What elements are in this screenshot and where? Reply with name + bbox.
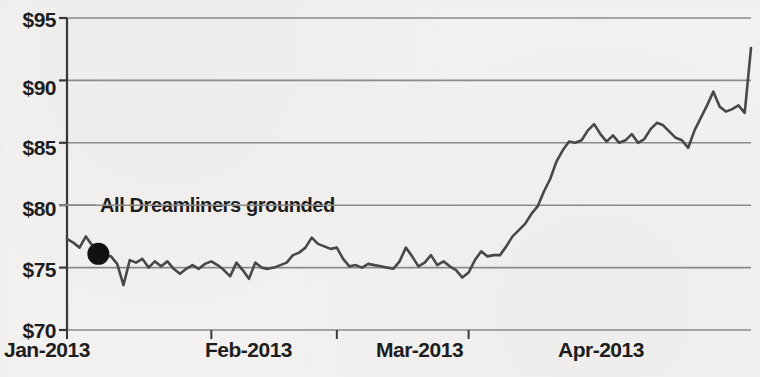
annotation-marker-group [87, 243, 109, 265]
data-series-group [67, 48, 751, 285]
annotation-marker-dot [87, 243, 109, 265]
data-line-series-0 [67, 48, 751, 285]
gridlines-group [67, 18, 751, 330]
axis-ticks-group [59, 18, 469, 339]
chart-screenshot: $95 $90 $85 $80 $75 $70 Jan-2013 Feb-201… [0, 0, 760, 377]
chart-plot-area [0, 0, 760, 377]
